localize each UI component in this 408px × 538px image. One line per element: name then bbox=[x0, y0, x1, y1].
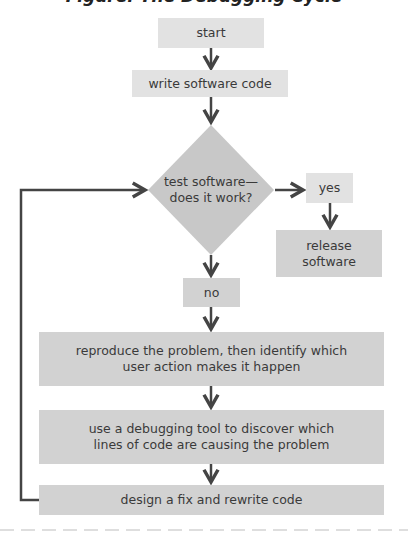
node-start: start bbox=[158, 18, 264, 48]
release-label-line2: software bbox=[302, 254, 356, 270]
node-design-fix: design a fix and rewrite code bbox=[39, 485, 384, 515]
node-no: no bbox=[183, 278, 240, 307]
node-decision: test software— does it work? bbox=[148, 125, 274, 255]
node-write-code-label: write software code bbox=[148, 76, 271, 92]
node-release: release software bbox=[276, 230, 382, 277]
node-yes-label: yes bbox=[319, 180, 341, 196]
debug-label-line2: lines of code are causing the problem bbox=[89, 437, 335, 453]
node-reproduce: reproduce the problem, then identify whi… bbox=[39, 332, 384, 386]
node-no-label: no bbox=[204, 285, 220, 301]
node-write-code: write software code bbox=[132, 70, 288, 97]
node-start-label: start bbox=[196, 25, 225, 41]
node-debug: use a debugging tool to discover which l… bbox=[39, 410, 384, 464]
node-yes: yes bbox=[306, 173, 353, 203]
decision-label-line2: does it work? bbox=[164, 190, 258, 206]
node-design-fix-label: design a fix and rewrite code bbox=[121, 492, 303, 508]
debug-label-line1: use a debugging tool to discover which bbox=[89, 421, 335, 437]
release-label-line1: release bbox=[302, 238, 356, 254]
reproduce-label-line2: user action makes it happen bbox=[76, 359, 347, 375]
decision-label-line1: test software— bbox=[164, 174, 258, 190]
reproduce-label-line1: reproduce the problem, then identify whi… bbox=[76, 343, 347, 359]
